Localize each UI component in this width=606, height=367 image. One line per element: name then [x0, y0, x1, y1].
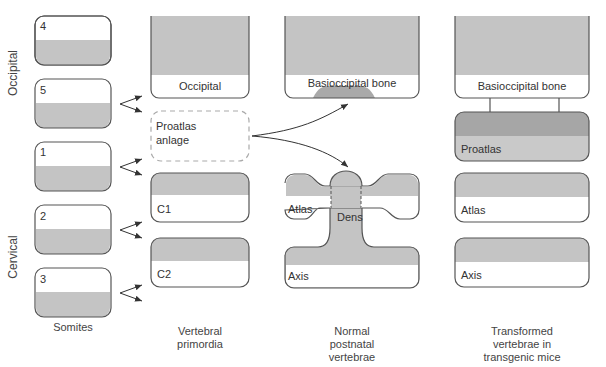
somite-4: [35, 16, 111, 65]
proatlas-label: Proatlas: [461, 143, 501, 155]
vertebral-primordia-caption: Vertebral primordia: [151, 325, 249, 351]
occipital-label: Occipital: [151, 80, 249, 92]
dens-label: Dens: [337, 211, 363, 223]
somite-5: [35, 79, 111, 128]
somite-number: 3: [40, 273, 46, 285]
somite-1: [35, 142, 111, 191]
somites-caption: Somites: [35, 321, 111, 334]
somite-arrows: [120, 96, 142, 301]
proatlas-anlage-label-1: Proatlas: [156, 120, 196, 132]
somite-number: 2: [40, 210, 46, 222]
caption-line: transgenic mice: [460, 351, 584, 364]
transgenic-basioccipital: [455, 16, 589, 112]
axis-label: Axis: [288, 270, 309, 282]
proatlas-anlage-label-2: anlage: [156, 134, 189, 146]
somite-2: [35, 205, 111, 254]
cervical-side-label: Cervical: [6, 232, 20, 282]
somite-number: 5: [40, 84, 46, 96]
caption-line: Vertebral: [151, 325, 249, 338]
caption-line: postnatal: [300, 338, 404, 351]
basioccipital-label: Basioccipital bone: [285, 77, 419, 89]
caption-line: vertebrae: [300, 351, 404, 364]
diagram-canvas: [0, 0, 606, 367]
c2-label: C2: [157, 268, 171, 280]
somite-number: 1: [40, 146, 46, 158]
caption-line: Transformed: [460, 325, 584, 338]
caption-line: Normal: [300, 325, 404, 338]
somite-number: 4: [40, 20, 46, 32]
normal-postnatal-caption: Normal postnatal vertebrae: [300, 325, 404, 364]
transgenic-axis-label: Axis: [461, 269, 482, 281]
c1-label: C1: [157, 203, 171, 215]
atlas-label: Atlas: [288, 203, 312, 215]
caption-line: vertebrae in: [460, 338, 584, 351]
transgenic-basioccipital-label: Basioccipital bone: [455, 80, 589, 92]
proatlas-arrows: [252, 104, 348, 167]
somite-3: [35, 268, 111, 317]
caption-line: primordia: [151, 338, 249, 351]
transgenic-atlas-label: Atlas: [461, 204, 485, 216]
occipital-side-label: Occipital: [6, 48, 20, 98]
transgenic-caption: Transformed vertebrae in transgenic mice: [460, 325, 584, 364]
